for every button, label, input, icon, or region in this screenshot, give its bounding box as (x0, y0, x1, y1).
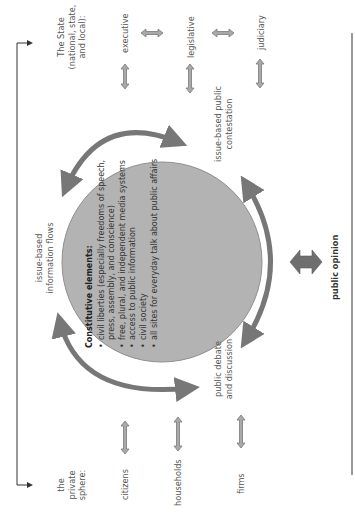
list-item: access to public information (128, 148, 139, 348)
arrow-to-state-icon (27, 40, 33, 46)
state-heading: The State (national, state, and local): (56, 4, 88, 70)
label-public-opinion: public opinion (330, 235, 341, 300)
double-arrow-vertical-icon (121, 421, 129, 454)
state-heading-line3: and local): (77, 4, 88, 70)
arrow-to-private-sphere-icon (27, 482, 33, 488)
constitutive-elements-text: Constitutive elements: civil liberties (… (85, 148, 160, 348)
private-member-firms: firms (236, 473, 247, 494)
label-issue-based-information-flows: issue-based information flows (34, 218, 55, 298)
list-item: free, plural, and independent media syst… (118, 148, 129, 348)
double-arrow-horizontal-icon (212, 29, 234, 37)
private-sphere-heading-line3: sphere: (77, 465, 88, 505)
constitutive-elements-title: Constitutive elements: (85, 148, 96, 348)
constitutive-elements-list: civil liberties (especially freedoms of … (97, 148, 161, 348)
private-sphere-heading: the private sphere: (56, 465, 88, 505)
state-heading-line2: (national, state, (67, 4, 78, 70)
state-heading-line1: The State (56, 4, 67, 70)
list-item: civil society (139, 148, 150, 348)
list-item: all sites for everyday talk about public… (150, 148, 161, 348)
left-bracket-connector (17, 40, 33, 488)
private-member-households: households (173, 459, 184, 506)
public-opinion-double-arrow-icon (290, 250, 322, 274)
private-sphere-heading-line1: the (56, 465, 67, 505)
private-sphere-arrows (121, 415, 245, 454)
state-member-judiciary: judiciary (256, 15, 267, 50)
double-arrow-vertical-icon (256, 59, 264, 88)
state-member-legislative: legislative (186, 16, 197, 58)
list-item: civil liberties (especially freedoms of … (97, 148, 118, 348)
private-member-citizens: citizens (120, 469, 131, 500)
double-arrow-horizontal-icon (141, 29, 163, 37)
state-vertical-arrows (121, 59, 264, 93)
double-arrow-vertical-icon (237, 415, 245, 448)
state-member-executive: executive (120, 13, 131, 53)
label-public-debate-and-discussion: public debate and discussion (213, 336, 234, 402)
double-arrow-vertical-icon (121, 64, 129, 89)
private-sphere-heading-line2: private (67, 465, 78, 505)
label-issue-based-public-contestation: issue-based public contestation (213, 82, 234, 166)
double-arrow-vertical-icon (174, 417, 182, 451)
double-arrow-vertical-icon (186, 64, 194, 93)
